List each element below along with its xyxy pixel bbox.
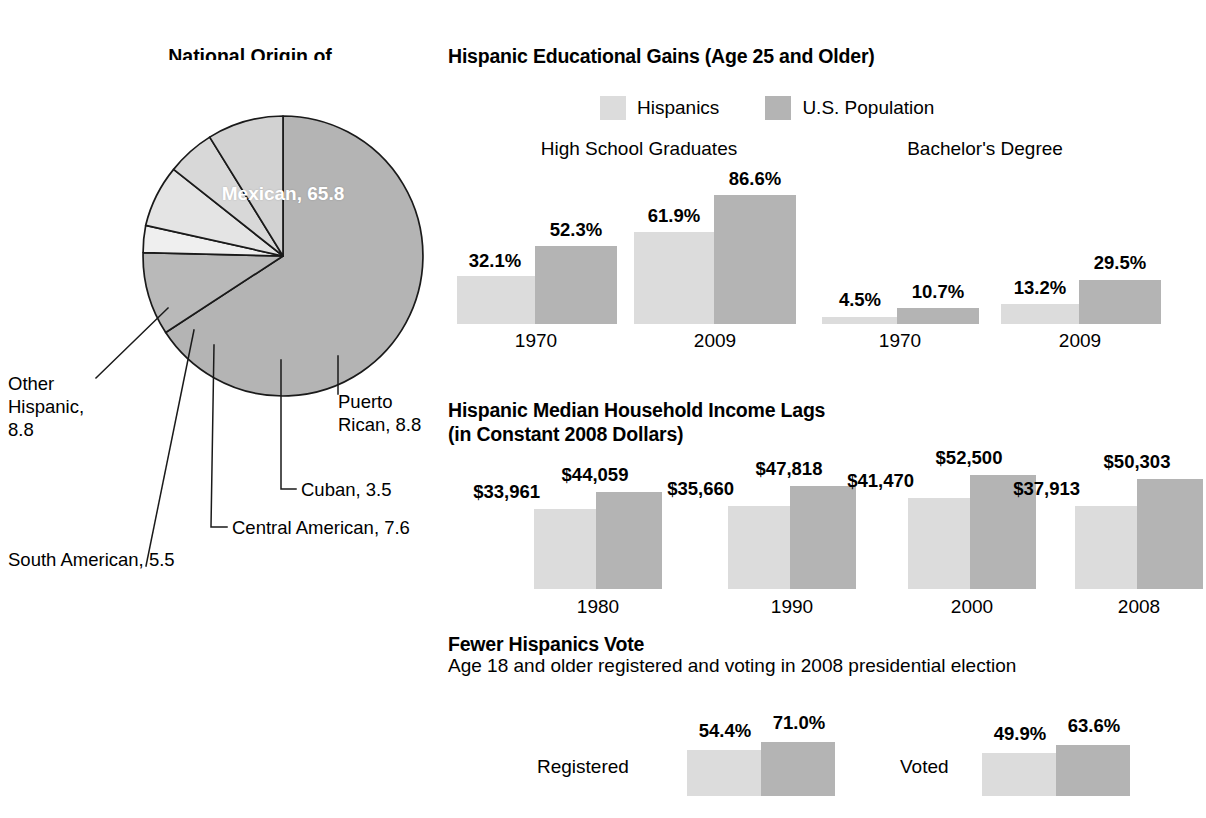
pie-callout-central-american: Central American, 7.6 xyxy=(232,516,410,539)
voting-section-title: Fewer Hispanics Vote xyxy=(448,632,644,656)
axis-label-ba-2009: 2009 xyxy=(1030,330,1130,352)
income-section-title: Hispanic Median Household Income Lags (i… xyxy=(448,398,825,446)
bar-hs-1970-us xyxy=(535,246,617,324)
bar-income-2008-hispanic xyxy=(1075,506,1137,589)
bar-voting-registered-hispanic xyxy=(687,750,761,796)
bar-hs-2009-hispanic xyxy=(634,232,714,324)
bar-voting-registered-us xyxy=(761,742,835,796)
axis-label-income-2000: 2000 xyxy=(922,596,1022,618)
bar-ba-2009-us xyxy=(1079,280,1161,324)
education-group-heading-high-school: High School Graduates xyxy=(509,138,769,160)
legend-swatch-hispanics xyxy=(600,96,626,120)
voting-section-subtitle: Age 18 and older registered and voting i… xyxy=(448,654,1016,678)
value-income-1990-hispanic: $35,660 xyxy=(640,478,734,500)
pie-callout-other-hispanic: Other Hispanic, 8.8 xyxy=(8,372,118,441)
pie-callout-south-american: South American, 5.5 xyxy=(8,548,175,571)
axis-label-income-1980: 1980 xyxy=(548,596,648,618)
bar-ba-2009-hispanic xyxy=(1001,304,1079,324)
pie-chart-panel: National Origin of U.S. Hispanics, 2008 xyxy=(0,0,440,620)
education-group-heading-bachelors: Bachelor's Degree xyxy=(870,138,1100,160)
axis-label-ba-1970: 1970 xyxy=(850,330,950,352)
value-income-2008-hispanic: $37,913 xyxy=(988,478,1080,500)
value-income-2008-us: $50,303 xyxy=(1082,451,1192,473)
axis-label-income-2008: 2008 xyxy=(1089,596,1189,618)
bar-ba-1970-us xyxy=(897,308,979,324)
value-ba-1970-us: 10.7% xyxy=(888,281,988,303)
bar-income-1980-us xyxy=(596,492,662,589)
legend-label-hispanics: Hispanics xyxy=(637,97,719,119)
bar-income-2000-hispanic xyxy=(908,498,970,589)
value-hs-2009-us: 86.6% xyxy=(705,168,805,190)
value-voting-registered-us: 71.0% xyxy=(753,712,845,734)
pie-slice-label-mexican: Mexican, 65.8 xyxy=(173,183,393,205)
pie-callout-puerto-rican: Puerto Rican, 8.8 xyxy=(338,390,421,436)
bar-income-1980-hispanic xyxy=(534,509,596,589)
value-ba-2009-hispanic: 13.2% xyxy=(990,277,1090,299)
bar-voting-voted-us xyxy=(1056,745,1130,796)
bar-voting-voted-hispanic xyxy=(982,753,1056,796)
value-income-2000-us: $52,500 xyxy=(914,447,1024,469)
legend-item-us-population: U.S. Population xyxy=(765,96,934,120)
axis-label-hs-2009: 2009 xyxy=(665,330,765,352)
legend-swatch-us-population xyxy=(765,96,791,120)
value-income-2000-hispanic: $41,470 xyxy=(822,470,914,492)
voting-cluster-label-registered: Registered xyxy=(537,756,629,778)
value-hs-2009-hispanic: 61.9% xyxy=(624,205,724,227)
bar-hs-1970-hispanic xyxy=(457,276,535,324)
value-income-1980-us: $44,059 xyxy=(540,464,650,486)
axis-label-income-1990: 1990 xyxy=(742,596,842,618)
bar-income-1990-us xyxy=(790,486,856,589)
bar-ba-1970-hispanic xyxy=(822,317,897,324)
pie-callout-cuban: Cuban, 3.5 xyxy=(301,478,392,501)
value-ba-2009-us: 29.5% xyxy=(1070,252,1170,274)
axis-label-hs-1970: 1970 xyxy=(486,330,586,352)
value-hs-1970-hispanic: 32.1% xyxy=(445,250,545,272)
infographic-page: National Origin of U.S. Hispanics, 2008 xyxy=(0,0,1206,818)
bar-hs-2009-us xyxy=(714,195,796,324)
legend-item-hispanics: Hispanics xyxy=(600,96,719,120)
legend-label-us-population: U.S. Population xyxy=(802,97,934,119)
bar-income-2008-us xyxy=(1137,479,1203,589)
education-section-title: Hispanic Educational Gains (Age 25 and O… xyxy=(448,44,875,68)
chart-legend: Hispanics U.S. Population xyxy=(600,96,934,120)
value-voting-voted-us: 63.6% xyxy=(1048,715,1140,737)
value-hs-1970-us: 52.3% xyxy=(526,219,626,241)
voting-cluster-label-voted: Voted xyxy=(900,756,949,778)
bar-income-1990-hispanic xyxy=(728,506,790,589)
value-income-1980-hispanic: $33,961 xyxy=(448,481,540,503)
